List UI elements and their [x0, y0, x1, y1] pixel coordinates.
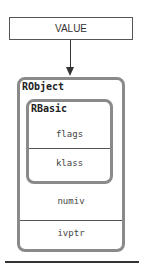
field-flags: flags [29, 129, 110, 139]
rbasic-title: RBasic [31, 103, 67, 114]
field-ivptr: ivptr [20, 228, 122, 238]
value-label: VALUE [55, 23, 87, 34]
field-numiv: numiv [20, 196, 122, 206]
value-box: VALUE [9, 17, 133, 40]
robject-field-divider [20, 220, 122, 221]
robject-title: RObject [22, 81, 64, 92]
arrow-down-icon [66, 67, 74, 76]
rbasic-field-divider [29, 148, 110, 149]
pointer-arrow-line [70, 40, 71, 69]
bottom-rule [5, 261, 139, 263]
field-klass: klass [29, 158, 110, 168]
